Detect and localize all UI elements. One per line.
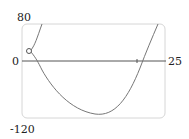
plot-frame — [22, 24, 165, 118]
y-bottom-label: -120 — [10, 124, 35, 135]
open-circle-marker — [27, 49, 32, 54]
lower-branch — [31, 24, 158, 114]
x-zero-label: 0 — [12, 56, 19, 67]
y-top-label: 80 — [17, 12, 31, 23]
upper-branch — [31, 24, 42, 50]
x-right-label: 25 — [168, 56, 182, 67]
